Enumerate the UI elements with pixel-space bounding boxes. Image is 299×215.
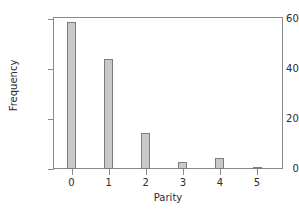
x-axis-tick-label: 2: [135, 177, 157, 188]
x-axis-tick-label: 4: [209, 177, 231, 188]
y-axis-tick: [48, 169, 54, 170]
y-axis-title: Frequency: [8, 36, 19, 136]
x-axis-tick: [72, 169, 73, 175]
bars-layer: [53, 17, 283, 169]
bar: [178, 162, 187, 169]
x-axis-tick-label: 1: [98, 177, 120, 188]
x-axis-tick: [257, 169, 258, 175]
x-axis-title: Parity: [53, 192, 283, 203]
x-axis-tick: [146, 169, 147, 175]
y-axis-tick-label: 20: [255, 114, 299, 124]
y-axis-tick-label: 60: [255, 14, 299, 24]
x-axis-tick: [109, 169, 110, 175]
x-axis-tick-label: 0: [61, 177, 83, 188]
x-axis-tick-label: 5: [246, 177, 268, 188]
bar: [104, 59, 113, 169]
y-axis-tick: [48, 119, 54, 120]
bar-chart-figure: 0204060 012345 Parity Frequency: [0, 0, 299, 215]
y-axis-tick: [48, 69, 54, 70]
y-axis-tick: [48, 19, 54, 20]
bar: [141, 133, 150, 169]
y-axis-tick-label: 40: [255, 64, 299, 74]
x-axis-tick-label: 3: [172, 177, 194, 188]
bar: [215, 158, 224, 169]
bar: [67, 22, 76, 169]
x-axis-tick: [183, 169, 184, 175]
y-axis-tick-label: 0: [255, 164, 299, 174]
x-axis-tick: [220, 169, 221, 175]
